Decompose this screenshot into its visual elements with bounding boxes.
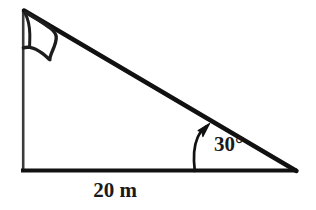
base-length-label: 20 m — [93, 178, 137, 202]
background-plate — [0, 0, 316, 210]
angle-label: 30° — [214, 132, 243, 156]
triangle-diagram: 30° 20 m — [0, 0, 316, 210]
figure-canvas: 30° 20 m — [0, 0, 316, 210]
